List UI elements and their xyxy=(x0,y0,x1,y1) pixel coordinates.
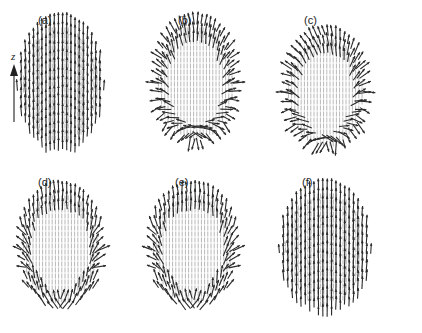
vector-field-d xyxy=(13,178,108,318)
vector-field-f xyxy=(275,176,375,321)
vector-field-c xyxy=(278,22,373,162)
vector-field-a xyxy=(13,10,108,160)
vector-field-e xyxy=(143,178,243,318)
vector-field-b xyxy=(148,10,243,155)
